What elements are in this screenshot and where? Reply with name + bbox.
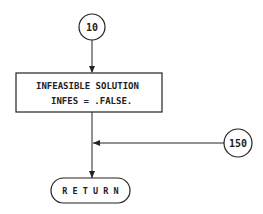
terminator-label: R E T U R N: [62, 186, 118, 196]
arrow-head-icon: [89, 171, 95, 178]
arrow-head-icon: [93, 140, 100, 146]
connector-150: 150: [224, 129, 252, 157]
arrow-head-icon: [89, 66, 95, 73]
process-line-2: INFES = .FALSE.: [51, 96, 132, 106]
flowchart: 10 INFEASIBLE SOLUTION INFES = .FALSE. 1…: [0, 0, 263, 214]
process-line-1: INFEASIBLE SOLUTION: [36, 81, 139, 91]
connector-10: 10: [79, 14, 105, 40]
connector-150-label: 150: [229, 138, 247, 149]
process-box: INFEASIBLE SOLUTION INFES = .FALSE.: [16, 73, 162, 112]
connector-10-label: 10: [86, 22, 98, 33]
terminator-return: R E T U R N: [51, 178, 130, 203]
